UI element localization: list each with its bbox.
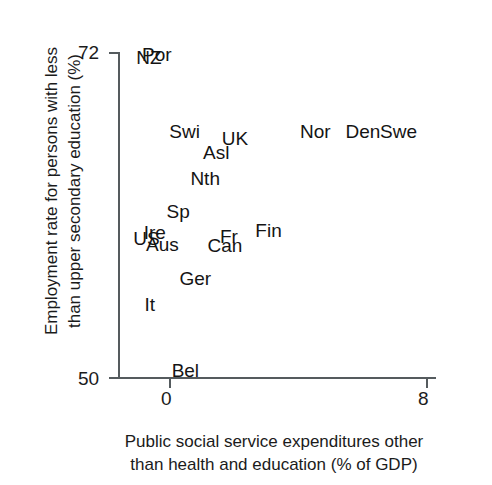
x-axis-tick-label-8: 8: [418, 388, 429, 410]
y-axis-title-line-2: than upper secondary education (%): [63, 11, 86, 371]
data-point-label-sp: Sp: [167, 201, 190, 223]
x-axis-tick-label-0: 0: [161, 388, 172, 410]
scatter-plot-figure: 72 50 0 8 NZPorSwiUKNorDenSweAslNthSpUSI…: [0, 0, 492, 485]
data-point-label-swe: Swe: [380, 121, 417, 143]
data-point-label-por: Por: [142, 44, 172, 66]
data-point-label-aus: Aus: [146, 234, 179, 256]
x-axis-title-line-2: than health and education (% of GDP): [130, 455, 417, 474]
x-axis-title-line-1: Public social service expenditures other: [125, 432, 424, 451]
data-point-label-fin: Fin: [255, 220, 281, 242]
data-point-label-asl: Asl: [203, 142, 229, 164]
data-point-label-bel: Bel: [172, 360, 199, 382]
y-axis-tick-50: [109, 377, 118, 379]
data-point-label-nor: Nor: [300, 121, 331, 143]
x-axis-title: Public social service expenditures other…: [104, 430, 444, 476]
y-axis-tick-72: [109, 52, 118, 54]
x-axis-tick-8: [426, 379, 428, 388]
data-point-label-can: Can: [208, 235, 243, 257]
data-point-label-den: Den: [345, 121, 380, 143]
y-axis-title-line-1: Employment rate for persons with less: [40, 11, 63, 371]
data-point-label-ger: Ger: [179, 268, 211, 290]
data-point-label-nth: Nth: [190, 168, 220, 190]
data-point-label-swi: Swi: [169, 121, 200, 143]
y-axis-title: Employment rate for persons with less th…: [40, 11, 86, 371]
y-axis-tick-label-50: 50: [78, 368, 99, 390]
plot-area: NZPorSwiUKNorDenSweAslNthSpUSIreAusFrCan…: [118, 52, 435, 378]
data-point-label-it: It: [144, 294, 155, 316]
